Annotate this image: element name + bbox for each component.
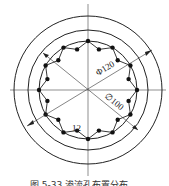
- hole-dot: [86, 39, 90, 43]
- hole-dot: [128, 112, 132, 116]
- hole-dot: [135, 88, 139, 92]
- hole-dot: [43, 63, 47, 67]
- figure-caption: 图 5-33 渗流孔布置分布: [30, 179, 128, 186]
- hole-dot: [116, 58, 120, 62]
- hole-dot: [86, 137, 90, 141]
- hole-dot: [126, 99, 130, 103]
- hole-dot: [45, 99, 49, 103]
- hole-dot: [110, 130, 114, 134]
- phi120-label: Φ120: [94, 59, 117, 78]
- hole-dot: [126, 77, 130, 81]
- phi120-dimension-line: [27, 50, 152, 126]
- hole-dot: [45, 77, 49, 81]
- hole-dot: [97, 128, 101, 132]
- hole-dot: [37, 88, 41, 92]
- arrow-icon: [27, 120, 34, 126]
- arrow-icon: [145, 50, 152, 56]
- hole-dot: [56, 118, 60, 122]
- hole-count-label: 12: [72, 123, 81, 133]
- hole-dot: [110, 45, 114, 49]
- ring-diagram: Φ120 ∅100 12 图 5-33 渗流孔布置分布: [0, 0, 169, 186]
- hole-dot: [75, 47, 79, 51]
- hole-dot: [116, 118, 120, 122]
- phi100-label: ∅100: [103, 91, 126, 113]
- hole-dot: [97, 47, 101, 51]
- hole-dot: [56, 58, 60, 62]
- hole-dot: [61, 130, 65, 134]
- hole-dot: [61, 45, 65, 49]
